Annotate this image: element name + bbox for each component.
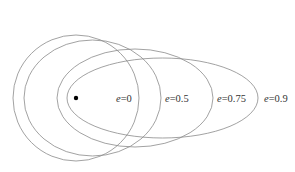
label-e09: e=0.9 — [264, 93, 288, 104]
label-e05-value: 0.5 — [176, 93, 189, 104]
label-e0-value: 0 — [127, 93, 132, 104]
label-e075-value: 0.75 — [228, 93, 246, 104]
label-e09-value: 0.9 — [275, 93, 288, 104]
label-e0: e=0 — [116, 93, 132, 104]
eccentricity-diagram: e=0 e=0.5 e=0.75 e=0.9 — [0, 0, 295, 172]
label-e075: e=0.75 — [217, 93, 246, 104]
orbit-e075 — [57, 49, 213, 147]
orbit-canvas: e=0 e=0.5 e=0.75 e=0.9 — [0, 0, 295, 172]
label-e05: e=0.5 — [165, 93, 189, 104]
orbit-e05 — [24, 40, 161, 156]
focus-point — [74, 96, 78, 100]
